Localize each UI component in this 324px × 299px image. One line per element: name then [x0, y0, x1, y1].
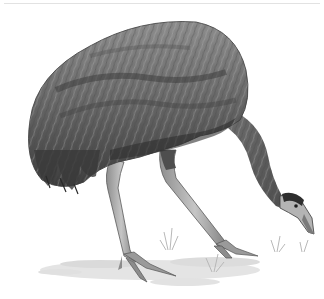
emu-leg-right [160, 150, 258, 258]
emu-illustration [0, 0, 324, 299]
emu-head [280, 193, 314, 234]
emu-body [29, 22, 249, 195]
ground-shadow [38, 257, 260, 286]
emu-eye [294, 204, 298, 208]
